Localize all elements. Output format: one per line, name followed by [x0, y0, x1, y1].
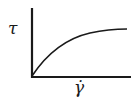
x-axis-label: γ̇ [74, 79, 84, 96]
plot-area [0, 0, 139, 103]
flow-curve [32, 29, 127, 76]
y-axis-label: τ [8, 20, 17, 37]
flow-curve-diagram: τ γ̇ [0, 0, 139, 103]
